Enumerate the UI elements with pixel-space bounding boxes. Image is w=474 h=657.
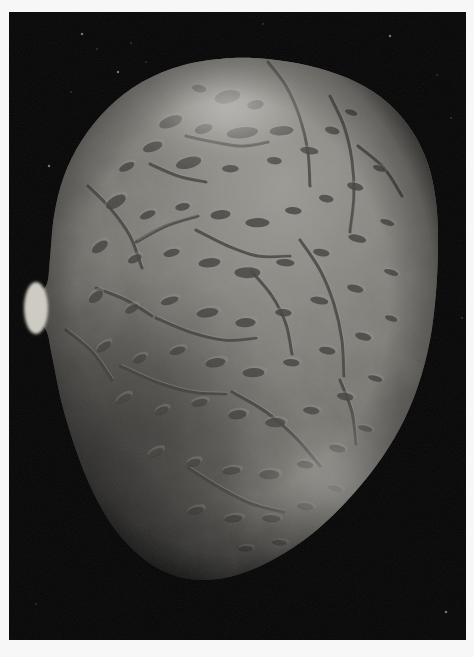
page-margin-top xyxy=(0,0,474,12)
page-margin-left xyxy=(0,0,9,657)
photo-caption xyxy=(9,641,466,657)
asteroid-image-canvas xyxy=(9,12,466,640)
page-margin-right xyxy=(466,0,474,657)
film-grain-overlay xyxy=(9,12,466,640)
asteroid-photograph xyxy=(9,12,466,640)
photo-page xyxy=(0,0,474,657)
